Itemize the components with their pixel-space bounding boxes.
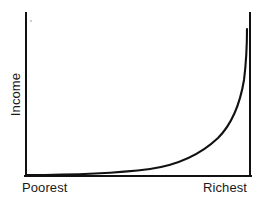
scan-speck bbox=[30, 20, 32, 22]
x-axis-label-poorest: Poorest bbox=[22, 181, 68, 194]
income-distribution-figure: Income Poorest Richest bbox=[0, 0, 271, 207]
y-axis-label: Income bbox=[9, 67, 22, 123]
chart-plot-area bbox=[0, 0, 271, 207]
x-axis-label-richest: Richest bbox=[203, 181, 247, 194]
